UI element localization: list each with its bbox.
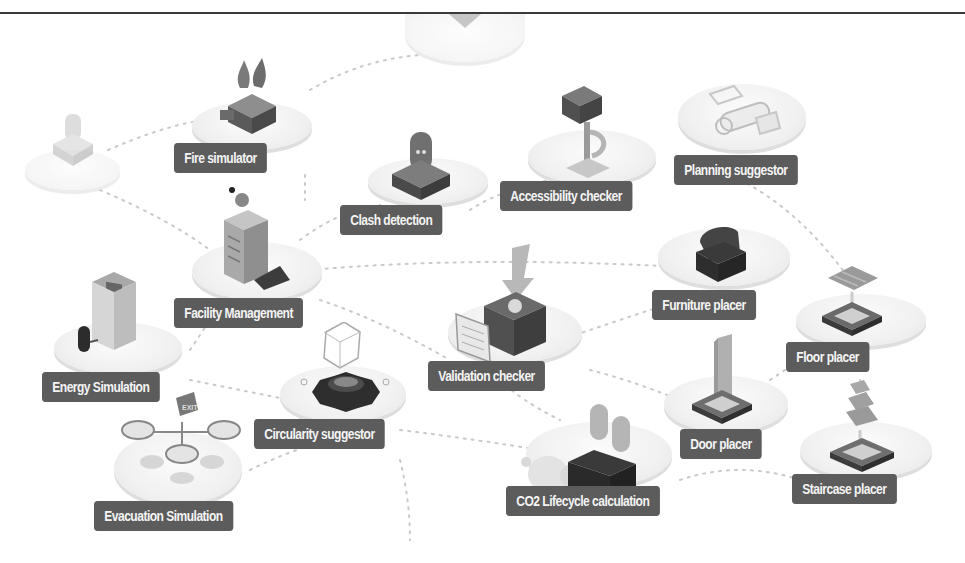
label-co2-lifecycle-calculation[interactable]: CO2 Lifecycle calculation xyxy=(506,486,660,516)
node-co2-lifecycle-calculation[interactable]: CO2 Lifecycle calculation xyxy=(506,400,706,520)
node-energy-simulation[interactable]: Energy Simulation xyxy=(42,270,202,400)
label-evacuation-simulation[interactable]: Evacuation Simulation xyxy=(94,501,233,531)
label-planning-suggestor[interactable]: Planning suggestor xyxy=(674,155,798,185)
node-planning-suggestor[interactable]: Planning suggestor xyxy=(674,82,824,186)
exit-sign-icon: EXIT xyxy=(116,392,246,484)
node-clash-detection[interactable]: Clash detection xyxy=(340,130,500,236)
gear-cycle-icon xyxy=(300,322,390,418)
node-furniture-placer[interactable]: Furniture placer xyxy=(652,222,802,322)
label-validation-checker[interactable]: Validation checker xyxy=(428,361,545,391)
node-evacuation-simulation[interactable]: EXIT Evacuation Simulation xyxy=(94,392,274,532)
document-checkbox-icon xyxy=(454,244,564,362)
floor-tile-icon xyxy=(818,264,888,344)
label-accessibility-checker[interactable]: Accessibility checker xyxy=(500,181,632,211)
node-accessibility-checker[interactable]: Accessibility checker xyxy=(500,82,680,212)
server-building-icon xyxy=(214,186,294,290)
ramp-stairs-icon xyxy=(550,82,620,182)
svg-text:EXIT: EXIT xyxy=(182,404,198,411)
flame-machine-icon xyxy=(218,58,284,138)
funnel-icon xyxy=(447,14,483,34)
label-furniture-placer[interactable]: Furniture placer xyxy=(652,290,756,320)
blueprint-roll-icon xyxy=(694,82,794,144)
node-validation-checker[interactable]: Validation checker xyxy=(428,244,608,394)
label-fire-simulator[interactable]: Fire simulator xyxy=(174,143,267,173)
staircase-icon xyxy=(826,380,902,476)
node-top-center-faded xyxy=(405,14,525,64)
node-left-faded xyxy=(25,110,120,190)
node-floor-placer[interactable]: Floor placer xyxy=(786,264,936,374)
label-staircase-placer[interactable]: Staircase placer xyxy=(792,474,897,504)
node-staircase-placer[interactable]: Staircase placer xyxy=(792,380,942,508)
generator-icon xyxy=(74,270,154,366)
robot-capsule-icon xyxy=(388,130,454,202)
label-clash-detection[interactable]: Clash detection xyxy=(340,205,443,235)
sensor-icon xyxy=(45,110,101,170)
node-fire-simulator[interactable]: Fire simulator xyxy=(174,58,334,174)
node-circularity-suggestor[interactable]: Circularity suggestor xyxy=(254,322,434,452)
armchair-icon xyxy=(690,222,750,284)
